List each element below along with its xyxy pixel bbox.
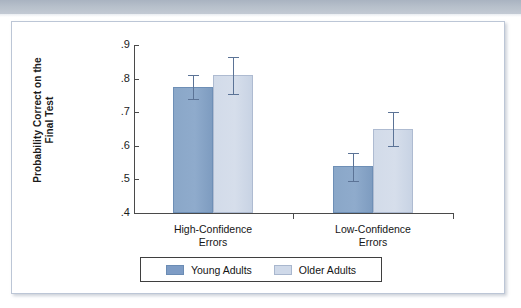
figure-frame: Probability Correct on the Final Test .4… (11, 21, 505, 294)
error-bar-cap (348, 181, 359, 182)
y-axis-tick: .4 (134, 213, 139, 214)
error-bar-stem (353, 153, 354, 181)
legend-label-older-adults: Older Adults (299, 264, 356, 276)
page-root: Probability Correct on the Final Test .4… (0, 0, 521, 308)
scan-banner-edge (0, 14, 521, 17)
legend-item-older-adults: Older Adults (274, 264, 356, 276)
y-axis-tick: .5 (134, 179, 139, 180)
y-axis-tick: .7 (134, 112, 139, 113)
y-axis-label-line2: Final Test (44, 40, 56, 200)
y-axis-label-line1: Probability Correct on the (32, 40, 44, 200)
legend-swatch-young-adults (166, 265, 184, 275)
error-bar-stem (393, 112, 394, 146)
bar-older-adults (213, 75, 253, 213)
x-axis-tick (453, 213, 454, 219)
scan-banner-strip (0, 0, 521, 14)
error-bar-cap (388, 112, 399, 113)
y-axis-tick: .6 (134, 146, 139, 147)
legend-label-young-adults: Young Adults (191, 264, 252, 276)
legend-swatch-older-adults (274, 265, 292, 275)
error-bar-cap (228, 94, 239, 95)
y-axis-tick: .8 (134, 79, 139, 80)
x-axis-category-label: Low-Confidence Errors (303, 223, 443, 248)
y-axis-tick: .9 (134, 45, 139, 46)
error-bar-cap (388, 146, 399, 147)
y-axis-label: Probability Correct on the Final Test (32, 40, 56, 200)
y-axis-tick-label: .6 (121, 139, 130, 151)
error-bar-cap (188, 75, 199, 76)
y-axis-tick-label: .8 (121, 72, 130, 84)
x-axis-line (134, 213, 454, 214)
x-axis-category-label: High-Confidence Errors (143, 223, 283, 248)
error-bar-cap (188, 99, 199, 100)
y-axis-tick-label: .9 (121, 38, 130, 50)
x-axis-tick (293, 213, 294, 219)
y-axis-tick-label: .4 (121, 206, 130, 218)
bar-young-adults (173, 87, 213, 213)
error-bar-stem (233, 57, 234, 94)
y-axis-tick-label: .5 (121, 172, 130, 184)
chart-legend: Young Adults Older Adults (140, 257, 382, 282)
plot-area: Probability Correct on the Final Test .4… (12, 22, 506, 295)
error-bar-cap (228, 57, 239, 58)
y-axis-line (134, 45, 135, 214)
error-bar-cap (348, 153, 359, 154)
error-bar-stem (193, 75, 194, 99)
legend-item-young-adults: Young Adults (166, 264, 252, 276)
y-axis-tick-label: .7 (121, 105, 130, 117)
